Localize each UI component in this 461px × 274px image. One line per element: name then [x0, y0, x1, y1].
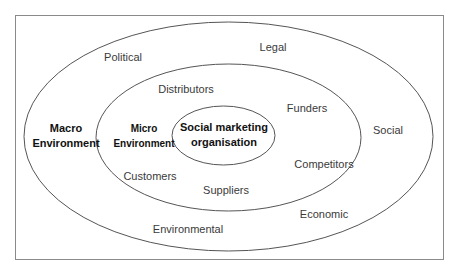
- micro-label-line1: Micro: [131, 121, 158, 136]
- factor-legal: Legal: [260, 40, 287, 55]
- factor-environmental: Environmental: [153, 222, 223, 237]
- factor-economic: Economic: [300, 207, 348, 222]
- factor-distributors: Distributors: [158, 82, 214, 97]
- factor-competitors: Competitors: [294, 157, 353, 172]
- factor-social: Social: [373, 123, 403, 138]
- social-marketing-organisation-label: Social marketing organisation: [180, 120, 268, 150]
- social-marketing-environment-diagram: Political Legal Social Economic Environm…: [0, 0, 461, 274]
- factor-customers: Customers: [123, 169, 176, 184]
- macro-environment-label: Macro Environment: [32, 121, 99, 151]
- micro-label-line2: Environment: [113, 136, 174, 151]
- factor-funders: Funders: [287, 101, 327, 116]
- core-label-line1: Social marketing: [180, 120, 268, 135]
- factor-suppliers: Suppliers: [203, 183, 249, 198]
- micro-environment-label: Micro Environment: [113, 121, 174, 151]
- core-label-line2: organisation: [191, 135, 257, 150]
- factor-political: Political: [104, 50, 142, 65]
- macro-label-line2: Environment: [32, 136, 99, 151]
- macro-label-line1: Macro: [50, 121, 82, 136]
